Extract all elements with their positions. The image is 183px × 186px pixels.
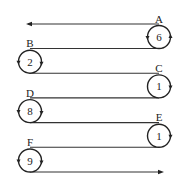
node-label: E xyxy=(156,111,163,123)
node-d: D8 xyxy=(17,87,44,123)
node-value: 8 xyxy=(27,105,33,117)
node-c: C1 xyxy=(148,62,173,98)
serpentine-diagram: A6B2C1D8E1F9 xyxy=(0,0,183,186)
node-value: 6 xyxy=(156,31,162,43)
node-label: A xyxy=(155,13,163,25)
node-label: D xyxy=(26,87,34,99)
nodes: A6B2C1D8E1F9 xyxy=(17,13,173,173)
node-e: E1 xyxy=(148,111,173,147)
node-label: F xyxy=(27,136,33,148)
node-label: B xyxy=(26,37,33,49)
path-lines xyxy=(26,22,164,174)
end-arrowhead-icon xyxy=(158,170,164,174)
node-value: 2 xyxy=(27,56,33,68)
node-value: 9 xyxy=(27,155,33,167)
node-b: B2 xyxy=(17,37,44,73)
start-arrowhead-icon xyxy=(26,22,32,26)
node-value: 1 xyxy=(156,130,162,142)
node-value: 1 xyxy=(156,80,162,92)
node-f: F9 xyxy=(17,136,44,172)
node-label: C xyxy=(155,62,162,74)
node-a: A6 xyxy=(146,13,173,49)
